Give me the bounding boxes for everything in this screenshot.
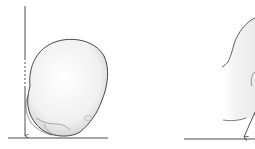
skull-outline-partial: [224, 18, 255, 120]
left-diagram-panel: [0, 0, 128, 149]
left-skull-diagram: [0, 0, 128, 149]
right-diagram-panel: [128, 0, 255, 149]
skull-outline: [28, 39, 108, 136]
right-skull-diagram: [128, 0, 255, 149]
